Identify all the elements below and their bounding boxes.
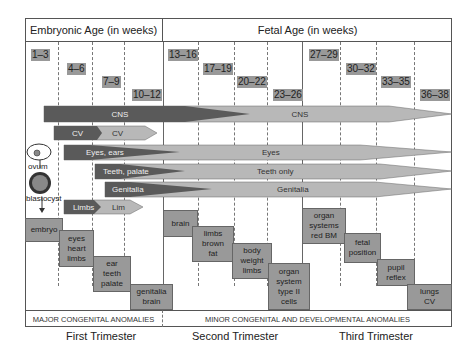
box-embryo: embryo [25,218,63,242]
first-trimester-label: First Trimester [66,330,136,342]
box-organ-systems-red-bm: organ systems red BM [302,208,346,244]
band-cns-embryonic: CNS [95,106,145,122]
box-lungs-cv: lungs CV [407,284,452,310]
ovum-label: ovum [28,162,48,171]
band-eyes-fetal: Eyes [262,145,280,160]
band-teeth-embryonic: Teeth, palate [103,164,149,179]
box-ear-teeth-palate: ear teeth palate [93,256,131,292]
major-anomalies-label: MAJOR CONGENITAL ANOMALIES [25,310,163,327]
band-genitalia-embryonic: Genitalia [112,182,144,197]
band-teeth-fetal: Teeth only [257,164,293,179]
band-limbs-fetal: Lim [112,200,125,214]
box-organ-system-type-ii: organ system type II cells [268,263,310,310]
band-cv-fetal: CV [112,126,123,140]
band-cv-embryonic: CV [72,126,83,140]
box-eyes-heart-limbs: eyes heart limbs [59,230,94,267]
development-bands [0,0,474,346]
band-genitalia-fetal: Genitalia [277,182,309,197]
second-trimester-label: Second Trimester [192,330,278,342]
band-limbs-embryonic: Limbs [73,200,94,214]
box-limbs-brown-fat: limbs brown fat [192,226,234,262]
blastocyst-label: blastocyst [26,194,62,203]
band-eyes-embryonic: Eyes, ears [86,145,124,160]
box-pupil-reflex: pupil reflex [377,259,415,286]
third-trimester-label: Third Trimester [339,330,413,342]
band-cns-fetal: CNS [270,106,330,122]
box-body-weight-limbs: body weight limbs [232,243,272,279]
box-fetal-position: fetal position [344,233,381,263]
minor-anomalies-label: MINOR CONGENITAL AND DEVELOPMENTAL ANOMA… [163,310,452,327]
box-genitalia-brain: genitalia brain [130,284,173,310]
